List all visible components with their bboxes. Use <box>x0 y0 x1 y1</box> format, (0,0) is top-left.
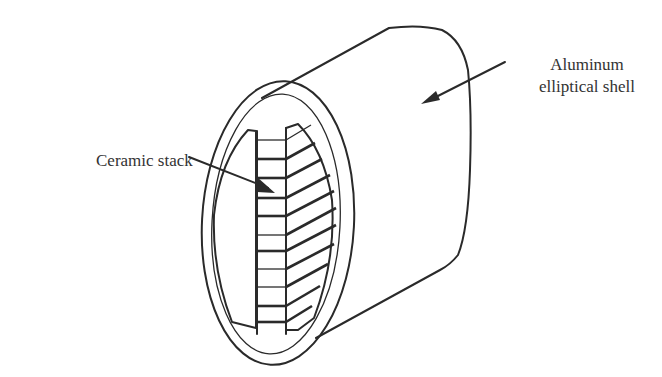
front-rim-outer <box>195 77 362 369</box>
stack-plates <box>257 125 336 322</box>
shell-label-line2: elliptical shell <box>512 76 662 98</box>
transducer-diagram: Ceramic stack Aluminum elliptical shell <box>0 0 662 377</box>
shell-label-line1: Aluminum <box>512 54 662 76</box>
ceramic-stack-label: Ceramic stack <box>96 150 193 172</box>
shell-arrow-head <box>421 91 440 104</box>
front-rim-inner <box>205 91 346 357</box>
aluminum-shell-label: Aluminum elliptical shell <box>512 54 662 98</box>
cylinder-body-outline <box>262 26 471 338</box>
